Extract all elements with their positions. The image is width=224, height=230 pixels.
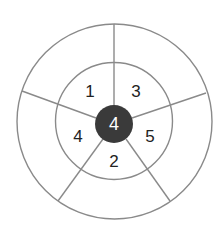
segment-label-right: 5 bbox=[145, 127, 154, 146]
spoke-bottom-right bbox=[126, 139, 170, 201]
spoke-right bbox=[132, 93, 206, 118]
segment-label-bottom: 2 bbox=[109, 152, 118, 171]
center-label: 4 bbox=[109, 114, 119, 134]
segment-label-upper-right: 3 bbox=[131, 82, 140, 101]
segment-label-upper-left: 1 bbox=[85, 82, 94, 101]
wheel-diagram: 4 1 3 5 2 4 bbox=[0, 0, 224, 230]
segment-label-left: 4 bbox=[73, 127, 82, 146]
spoke-bottom-left bbox=[58, 139, 103, 201]
